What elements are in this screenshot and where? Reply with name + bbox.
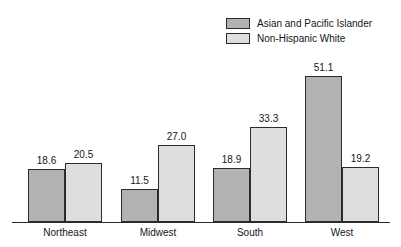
bar-rect	[65, 163, 102, 222]
bar-northeast-non-hispanic-white: 20.5	[65, 149, 102, 222]
bar-rect	[342, 167, 379, 222]
bar-midwest-asian-and-pacific-islander: 11.5	[121, 175, 158, 222]
bar-rect	[158, 145, 195, 222]
bar-rect	[305, 76, 342, 222]
x-tick-label-midwest: Midwest	[121, 227, 195, 239]
bar-value-label: 33.3	[259, 113, 278, 124]
bar-west-non-hispanic-white: 19.2	[342, 153, 379, 222]
bar-west-asian-and-pacific-islander: 51.1	[305, 62, 342, 222]
plot-area: 18.6 20.5 Northeast 11.5 27.0	[0, 0, 401, 247]
bar-northeast-asian-and-pacific-islander: 18.6	[28, 155, 65, 222]
x-tick-label-west: West	[305, 227, 379, 239]
bar-rect	[28, 169, 65, 222]
bar-value-label: 18.9	[222, 154, 241, 165]
bar-rect	[250, 127, 287, 222]
bar-value-label: 20.5	[74, 149, 93, 160]
bar-south-non-hispanic-white: 33.3	[250, 113, 287, 222]
bar-midwest-non-hispanic-white: 27.0	[158, 131, 195, 222]
bar-chart: Asian and Pacific Islander Non-Hispanic …	[0, 0, 401, 247]
x-axis-baseline	[12, 222, 390, 223]
bar-value-label: 18.6	[37, 155, 56, 166]
bar-value-label: 11.5	[130, 175, 149, 186]
bar-south-asian-and-pacific-islander: 18.9	[213, 154, 250, 222]
bar-value-label: 51.1	[314, 62, 333, 73]
x-tick-label-northeast: Northeast	[28, 227, 102, 239]
x-tick-label-south: South	[213, 227, 287, 239]
bar-rect	[213, 168, 250, 222]
bar-value-label: 27.0	[167, 131, 186, 142]
bar-value-label: 19.2	[351, 153, 370, 164]
bar-rect	[121, 189, 158, 222]
